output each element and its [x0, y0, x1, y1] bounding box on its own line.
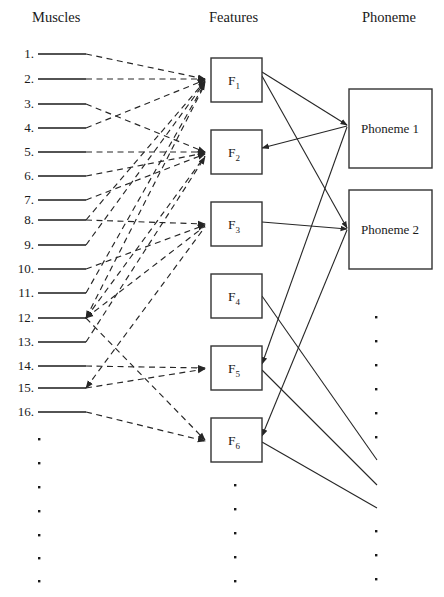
feature-box[interactable]: F3: [211, 202, 262, 246]
muscle-index-label: 6.: [24, 168, 34, 183]
muscle-row[interactable]: 9.: [24, 237, 86, 252]
diagram-canvas: Muscles Features Phoneme: [0, 0, 444, 597]
phoneme-box[interactable]: Phoneme 1: [349, 89, 432, 168]
feature-box[interactable]: F6: [211, 418, 262, 462]
muscle-row[interactable]: 4.: [24, 120, 86, 135]
muscle-index-label: 2.: [24, 71, 34, 86]
feature-box-rect[interactable]: [211, 346, 262, 390]
phoneme-column-header: Phoneme: [362, 9, 416, 25]
phoneme-box[interactable]: Phoneme 2: [349, 190, 432, 269]
muscle-row[interactable]: 15.: [18, 380, 86, 395]
network-diagram: Muscles Features Phoneme: [0, 0, 444, 597]
feature-box-rect[interactable]: [211, 202, 262, 246]
phonemes-ellipsis: [375, 316, 377, 580]
muscle-index-label: 9.: [24, 237, 34, 252]
muscle-row[interactable]: 13.: [18, 334, 86, 349]
features-ellipsis: [234, 484, 236, 582]
muscle-list: 1. 2. 3. 4. 5. 6.: [18, 46, 86, 419]
muscle-index-label: 13.: [18, 334, 34, 349]
muscle-index-label: 10.: [18, 261, 34, 276]
muscle-row[interactable]: 3.: [24, 96, 86, 111]
muscle-row[interactable]: 2.: [24, 71, 86, 86]
muscles-column-header: Muscles: [32, 9, 81, 25]
muscle-index-label: 11.: [18, 285, 34, 300]
muscle-row[interactable]: 8.: [24, 212, 86, 227]
feature-box[interactable]: F5: [211, 346, 262, 390]
muscle-index-label: 1.: [24, 46, 34, 61]
muscle-index-label: 15.: [18, 380, 34, 395]
feature-box-rect[interactable]: [211, 58, 262, 102]
muscle-index-label: 16.: [18, 404, 34, 419]
muscle-row[interactable]: 5.: [24, 144, 86, 159]
muscle-row[interactable]: 14.: [18, 358, 86, 373]
muscle-row[interactable]: 6.: [24, 168, 86, 183]
muscle-row[interactable]: 7.: [24, 192, 86, 207]
muscle-index-label: 7.: [24, 192, 34, 207]
feature-box[interactable]: F2: [211, 130, 262, 174]
muscle-index-label: 3.: [24, 96, 34, 111]
muscle-row[interactable]: 11.: [18, 285, 86, 300]
phoneme-box-label: Phoneme 1: [361, 121, 419, 136]
muscle-index-label: 8.: [24, 212, 34, 227]
muscle-index-label: 12.: [18, 310, 34, 325]
features-column-header: Features: [209, 9, 258, 25]
feature-box-rect[interactable]: [211, 274, 262, 318]
feature-box[interactable]: F4: [211, 274, 262, 318]
muscle-row[interactable]: 16.: [18, 404, 86, 419]
muscle-index-label: 14.: [18, 358, 34, 373]
muscle-index-label: 4.: [24, 120, 34, 135]
feature-box[interactable]: F1: [211, 58, 262, 102]
muscle-index-label: 5.: [24, 144, 34, 159]
phoneme-box-label: Phoneme 2: [361, 222, 419, 237]
muscle-to-feature-edges: [86, 54, 205, 441]
feature-box-rect[interactable]: [211, 418, 262, 462]
feature-box-rect[interactable]: [211, 130, 262, 174]
muscle-row[interactable]: 1.: [24, 46, 86, 61]
muscles-ellipsis: [38, 438, 40, 582]
muscle-row[interactable]: 10.: [18, 261, 86, 276]
muscle-row[interactable]: 12.: [18, 310, 86, 325]
